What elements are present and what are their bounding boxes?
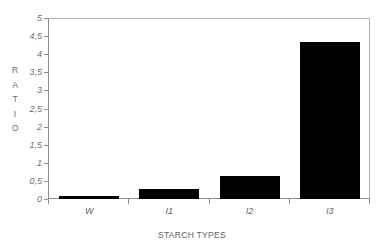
bar-chart: R A T I O 00,511,522,533,544,55 WI1I2I3 … bbox=[0, 0, 384, 252]
x-axis-tick-mark bbox=[128, 199, 129, 204]
bar-I3[interactable] bbox=[300, 42, 360, 199]
y-axis-title-letter: T bbox=[12, 92, 17, 107]
y-axis-tick-label: 1,5 bbox=[20, 140, 42, 150]
x-axis-tick-mark bbox=[369, 199, 370, 204]
y-axis-tick-label: 1 bbox=[20, 158, 42, 168]
x-axis-tick-mark bbox=[289, 199, 290, 204]
bar-slot bbox=[49, 18, 129, 199]
x-axis-tick-label: I1 bbox=[129, 206, 209, 216]
y-axis-title-letter: A bbox=[12, 78, 18, 93]
y-axis-tick-label: 2 bbox=[20, 122, 42, 132]
y-axis-tick-label: 3,5 bbox=[20, 67, 42, 77]
bar-slot bbox=[129, 18, 209, 199]
y-axis-tick-labels: 00,511,522,533,544,55 bbox=[20, 13, 42, 203]
x-axis-title: STARCH TYPES bbox=[0, 230, 384, 240]
x-axis-tick-mark bbox=[48, 199, 49, 204]
x-axis-tick-mark bbox=[209, 199, 210, 204]
x-axis-tick-label: I2 bbox=[210, 206, 290, 216]
bar-I1[interactable] bbox=[139, 189, 199, 199]
x-axis-tick-label: W bbox=[49, 206, 129, 216]
y-axis-tick-label: 3 bbox=[20, 85, 42, 95]
y-axis-tick-label: 0,5 bbox=[20, 176, 42, 186]
y-axis-title-letter: I bbox=[14, 107, 16, 122]
y-axis-tick-label: 5 bbox=[20, 13, 42, 23]
y-axis-title-letter: R bbox=[12, 63, 18, 78]
bar-I2[interactable] bbox=[220, 176, 280, 199]
y-axis-tick-label: 0 bbox=[20, 194, 42, 204]
y-axis-title-letter: O bbox=[12, 121, 19, 136]
x-axis-tick-marks bbox=[48, 199, 370, 204]
y-axis-tick-label: 4,5 bbox=[20, 31, 42, 41]
bar-slot bbox=[290, 18, 370, 199]
x-axis-tick-label: I3 bbox=[290, 206, 370, 216]
x-axis-tick-labels: WI1I2I3 bbox=[49, 206, 370, 222]
y-axis-tick-label: 2,5 bbox=[20, 104, 42, 114]
y-axis-tick-label: 4 bbox=[20, 49, 42, 59]
bar-slot bbox=[210, 18, 290, 199]
bars-layer bbox=[49, 18, 370, 199]
